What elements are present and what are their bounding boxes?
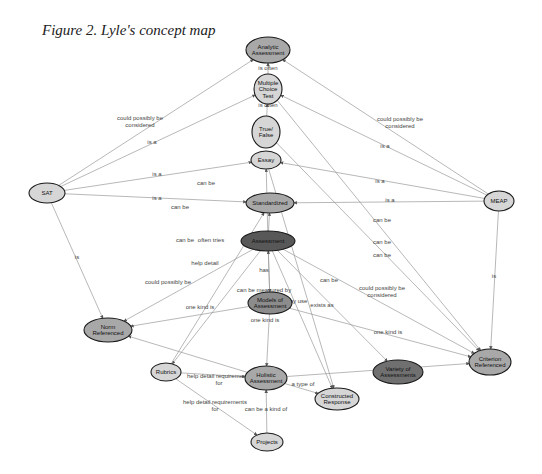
node-label: Referenced bbox=[92, 330, 123, 336]
edge-label: can be bbox=[373, 217, 392, 223]
node-label: Assessment bbox=[250, 378, 283, 384]
node-assessment: Assessment bbox=[241, 231, 295, 251]
node-label: SAT bbox=[41, 190, 53, 196]
node-constructed: ConstructedResponse bbox=[315, 388, 359, 410]
node-mct: MultipleChoiceTest bbox=[254, 74, 282, 104]
node-variety: Variety ofAssessments bbox=[373, 360, 423, 384]
edge-label: has bbox=[259, 267, 269, 273]
node-label: Holistic bbox=[256, 372, 275, 378]
node-label: Assessment bbox=[254, 303, 287, 309]
edge-truefalse-criterion bbox=[276, 143, 479, 351]
edge-label: is often bbox=[258, 65, 277, 71]
edge-label: is a bbox=[152, 171, 162, 177]
edge-meap-criterion bbox=[491, 211, 499, 349]
edge-label: can be bbox=[176, 237, 195, 243]
node-projects: Projects bbox=[251, 433, 283, 451]
edge-label: help detail requirementsfor bbox=[187, 373, 251, 386]
edge-label: help detail requirementsfor bbox=[183, 399, 247, 412]
node-label: Referenced bbox=[474, 362, 505, 368]
node-models: Models ofAssessment bbox=[248, 292, 292, 314]
node-label: Variety of bbox=[386, 366, 411, 372]
edge-holistic-norm bbox=[129, 336, 248, 372]
edge-label: could possibly beconsidered bbox=[359, 285, 406, 298]
edge-label: can be bbox=[373, 252, 392, 258]
node-essay: Essay bbox=[251, 151, 281, 169]
edge-label: is a bbox=[147, 139, 157, 145]
node-label: Response bbox=[323, 399, 351, 405]
node-label: Rubrics bbox=[156, 369, 176, 375]
edge-label: help detail bbox=[191, 260, 218, 266]
node-analytic: AnalyticAssessment bbox=[246, 37, 290, 63]
edge-label: can be bbox=[171, 204, 190, 210]
node-label: Constructed bbox=[321, 393, 353, 399]
edge-label: is a bbox=[152, 195, 162, 201]
node-label: Analytic bbox=[257, 44, 278, 50]
edge-label: is a bbox=[375, 178, 385, 184]
edge-label: is bbox=[492, 273, 496, 279]
node-criterion: CriterionReferenced bbox=[469, 349, 511, 375]
node-standardized: Standardized bbox=[246, 193, 294, 213]
node-rubrics: Rubrics bbox=[151, 363, 181, 381]
node-label: False bbox=[259, 132, 274, 138]
node-norm: NormReferenced bbox=[84, 318, 132, 342]
node-label: Assessment bbox=[252, 238, 285, 244]
node-label: MEAP bbox=[490, 198, 507, 204]
node-label: Projects bbox=[256, 439, 278, 445]
node-label: Norm bbox=[101, 324, 116, 330]
edge-label: can be bbox=[373, 239, 392, 245]
edge-label: could possibly beconsidered bbox=[377, 116, 424, 129]
edge-label: can be bbox=[197, 180, 216, 186]
edge-label: can be bbox=[320, 277, 339, 283]
edge-label: can be a kind of bbox=[245, 406, 288, 412]
node-label: Models of bbox=[257, 297, 283, 303]
node-meap: MEAP bbox=[484, 191, 514, 211]
node-label: Assessments bbox=[380, 372, 416, 378]
node-truefalse: True/False bbox=[252, 116, 280, 148]
edge-label: one kind is bbox=[186, 304, 215, 310]
node-layer: AnalyticAssessmentMultipleChoiceTestTrue… bbox=[29, 37, 514, 451]
edge-label: often tries bbox=[198, 237, 224, 243]
edge-label: could possibly be bbox=[145, 279, 192, 285]
concept-map: is oftenis oftencould possibly beconside… bbox=[0, 0, 542, 474]
edge-assessment-standardized bbox=[269, 213, 270, 231]
node-label: Essay bbox=[258, 157, 274, 163]
edge-label: is a bbox=[380, 143, 390, 149]
node-label: Multiple bbox=[258, 80, 279, 86]
node-label: Test bbox=[262, 93, 273, 99]
node-label: Choice bbox=[259, 86, 278, 92]
edge-label: could possibly beconsidered bbox=[117, 115, 164, 128]
node-label: Standardized bbox=[252, 200, 287, 206]
edge-label: one kind is bbox=[374, 329, 403, 335]
edge-sat-norm bbox=[51, 203, 102, 319]
node-label: Criterion bbox=[479, 356, 502, 362]
edge-label: is a bbox=[385, 197, 395, 203]
edge-label: a type of bbox=[291, 381, 314, 387]
node-label: True/ bbox=[259, 126, 273, 132]
node-label: Assessment bbox=[252, 50, 285, 56]
node-sat: SAT bbox=[29, 183, 65, 203]
edge-label: is bbox=[75, 254, 79, 260]
edge-label: exists as bbox=[310, 302, 333, 308]
edge-label: one kind is bbox=[251, 317, 280, 323]
node-holistic: HolisticAssessment bbox=[245, 366, 287, 390]
